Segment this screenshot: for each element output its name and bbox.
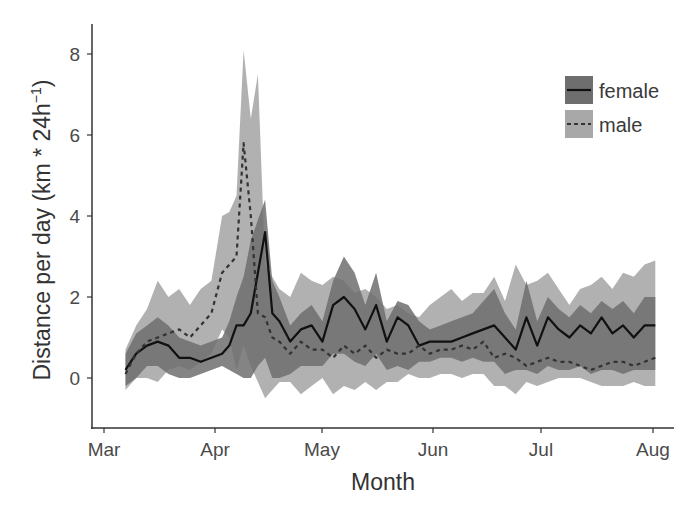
x-axis: MarAprMayJunJulAug (88, 428, 674, 460)
legend-label-male: male (599, 114, 642, 136)
y-axis-title-superscript: −1 (28, 87, 44, 103)
y-tick-label: 8 (69, 44, 80, 65)
x-tick-label-jul: Jul (529, 439, 553, 460)
distance-chart: 02468 MarAprMayJunJulAug Month Distance … (0, 0, 699, 510)
legend-label-female: female (599, 80, 659, 102)
x-tick-label-may: May (304, 439, 340, 460)
x-tick-label-aug: Aug (636, 439, 670, 460)
y-tick-label: 6 (69, 125, 80, 146)
y-axis-title-close: ) (29, 79, 55, 87)
y-tick-label: 0 (69, 368, 80, 389)
y-axis-title-main: Distance per day (km * 24h (29, 103, 55, 380)
x-tick-label-jun: Jun (418, 439, 449, 460)
y-axis-title: Distance per day (km * 24h−1) (28, 79, 55, 380)
x-axis-title: Month (351, 469, 415, 495)
y-tick-label: 4 (69, 206, 80, 227)
legend: female male (565, 76, 659, 138)
y-axis: 02468 (69, 24, 92, 429)
legend-item-female[interactable]: female (565, 76, 659, 104)
y-tick-label: 2 (69, 287, 80, 308)
legend-item-male[interactable]: male (565, 110, 642, 138)
x-tick-label-mar: Mar (88, 439, 121, 460)
x-tick-label-apr: Apr (200, 439, 230, 460)
